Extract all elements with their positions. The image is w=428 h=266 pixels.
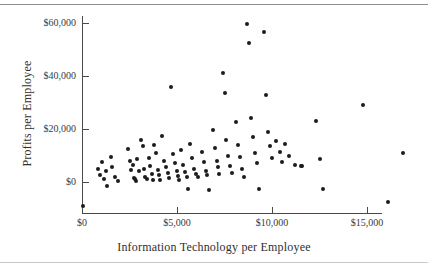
scatter-point bbox=[158, 178, 162, 182]
scatter-point bbox=[110, 165, 114, 169]
scatter-point bbox=[105, 184, 109, 188]
scatter-point bbox=[207, 188, 211, 192]
scatter-point bbox=[230, 171, 234, 175]
x-tick-label: $15,000 bbox=[351, 218, 384, 228]
scatter-point bbox=[157, 173, 161, 177]
scatter-point bbox=[200, 150, 204, 154]
scatter-point bbox=[164, 165, 168, 169]
scatter-point bbox=[96, 167, 100, 171]
scatter-point bbox=[154, 151, 158, 155]
scatter-point bbox=[270, 156, 274, 160]
scatter-point bbox=[245, 22, 249, 26]
scatter-point bbox=[221, 71, 225, 75]
scatter-plot: $0$20,000$40,000$60,000 $0$5,000$10,000$… bbox=[0, 0, 428, 266]
y-axis-line bbox=[82, 16, 83, 214]
scatter-point bbox=[255, 161, 259, 165]
scatter-point bbox=[139, 138, 143, 142]
scatter-point bbox=[134, 179, 138, 183]
scatter-point bbox=[202, 160, 206, 164]
scatter-point bbox=[141, 144, 145, 148]
scatter-point bbox=[135, 157, 139, 161]
scatter-point bbox=[128, 159, 132, 163]
x-axis-title: Information Technology per Employee bbox=[0, 240, 428, 255]
scatter-point bbox=[183, 170, 187, 174]
scatter-point bbox=[145, 177, 149, 181]
y-tick-label: $60,000 bbox=[44, 18, 77, 28]
scatter-point bbox=[192, 167, 196, 171]
scatter-point bbox=[217, 172, 221, 176]
scatter-point bbox=[152, 143, 156, 147]
scatter-point bbox=[137, 169, 141, 173]
scatter-point bbox=[293, 163, 297, 167]
scatter-point bbox=[148, 164, 152, 168]
scatter-point bbox=[268, 144, 272, 148]
scatter-point bbox=[190, 156, 194, 160]
y-tick-label: $0 bbox=[66, 177, 76, 187]
scatter-point bbox=[361, 103, 365, 107]
scatter-point bbox=[321, 187, 325, 191]
scatter-point bbox=[283, 142, 287, 146]
scatter-point bbox=[186, 187, 190, 191]
scatter-point bbox=[156, 168, 160, 172]
scatter-point bbox=[247, 41, 251, 45]
scatter-point bbox=[129, 168, 133, 172]
scatter-point bbox=[314, 119, 318, 123]
scatter-point bbox=[274, 139, 278, 143]
y-tick bbox=[83, 182, 89, 183]
scatter-point bbox=[181, 163, 185, 167]
scatter-point bbox=[169, 85, 173, 89]
scatter-point bbox=[185, 175, 189, 179]
scatter-point bbox=[81, 204, 85, 208]
scatter-point bbox=[211, 128, 215, 132]
scatter-point bbox=[226, 154, 230, 158]
y-tick-label: $20,000 bbox=[44, 124, 77, 134]
figure-panel: $0$20,000$40,000$60,000 $0$5,000$10,000$… bbox=[0, 0, 428, 266]
scatter-point bbox=[257, 187, 261, 191]
scatter-point bbox=[196, 175, 200, 179]
scatter-point bbox=[109, 155, 113, 159]
scatter-point bbox=[177, 178, 181, 182]
scatter-point bbox=[224, 138, 228, 142]
scatter-point bbox=[175, 169, 179, 173]
scatter-point bbox=[131, 163, 135, 167]
scatter-point bbox=[234, 120, 238, 124]
x-tick bbox=[272, 207, 273, 213]
scatter-point bbox=[216, 165, 220, 169]
y-axis-title: Profits per Employee bbox=[20, 34, 35, 194]
scatter-point bbox=[205, 173, 209, 177]
scatter-point bbox=[278, 150, 282, 154]
scatter-point bbox=[142, 167, 146, 171]
scatter-point bbox=[251, 135, 255, 139]
scatter-point bbox=[173, 161, 177, 165]
scatter-point bbox=[104, 169, 108, 173]
scatter-point bbox=[240, 167, 244, 171]
scatter-point bbox=[280, 160, 284, 164]
scatter-point bbox=[179, 148, 183, 152]
y-tick bbox=[83, 76, 89, 77]
scatter-point bbox=[236, 143, 240, 147]
scatter-point bbox=[300, 164, 304, 168]
scatter-point bbox=[151, 178, 155, 182]
x-tick-label: $5,000 bbox=[163, 218, 191, 228]
scatter-point bbox=[249, 116, 253, 120]
scatter-point bbox=[116, 179, 120, 183]
scatter-point bbox=[102, 177, 106, 181]
scatter-point bbox=[160, 134, 164, 138]
scatter-point bbox=[147, 156, 151, 160]
scatter-point bbox=[266, 130, 270, 134]
x-tick bbox=[367, 207, 368, 213]
scatter-point bbox=[253, 151, 257, 155]
x-tick-label: $10,000 bbox=[256, 218, 289, 228]
scatter-point bbox=[171, 152, 175, 156]
scatter-point bbox=[287, 154, 291, 158]
y-tick-label: $40,000 bbox=[44, 71, 77, 81]
scatter-point bbox=[318, 157, 322, 161]
scatter-point bbox=[264, 93, 268, 97]
scatter-point bbox=[188, 142, 192, 146]
scatter-point bbox=[223, 91, 227, 95]
scatter-point bbox=[166, 171, 170, 175]
scatter-point bbox=[228, 164, 232, 168]
scatter-point bbox=[215, 159, 219, 163]
scatter-point bbox=[242, 175, 246, 179]
scatter-point bbox=[401, 151, 405, 155]
